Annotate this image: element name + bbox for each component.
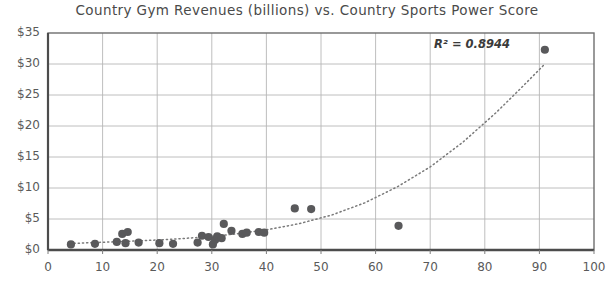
x-tick-label: 10: [78, 260, 128, 274]
x-tick-label: 20: [132, 260, 182, 274]
x-tick-label: 60: [351, 260, 401, 274]
x-tick-label: 70: [405, 260, 455, 274]
data-points: [67, 46, 549, 249]
x-tick-label: 30: [187, 260, 237, 274]
x-tick-label: 80: [460, 260, 510, 274]
y-tick-label: $35: [0, 25, 40, 39]
y-tick-label: $25: [0, 87, 40, 101]
trendline: [70, 64, 545, 243]
plot-canvas: [0, 0, 614, 286]
x-tick-label: 40: [241, 260, 291, 274]
x-tick-label: 100: [569, 260, 614, 274]
x-tick-label: 0: [23, 260, 73, 274]
y-tick-label: $5: [0, 211, 40, 225]
y-tick-label: $15: [0, 149, 40, 163]
x-tick-label: 90: [514, 260, 564, 274]
y-tick-label: $30: [0, 56, 40, 70]
r-squared-annotation: R² = 0.8944: [434, 37, 510, 51]
y-tick-label: $0: [0, 242, 40, 256]
y-tick-label: $10: [0, 180, 40, 194]
scatter-chart: Country Gym Revenues (billions) vs. Coun…: [0, 0, 614, 286]
y-tick-label: $20: [0, 118, 40, 132]
x-tick-label: 50: [296, 260, 346, 274]
